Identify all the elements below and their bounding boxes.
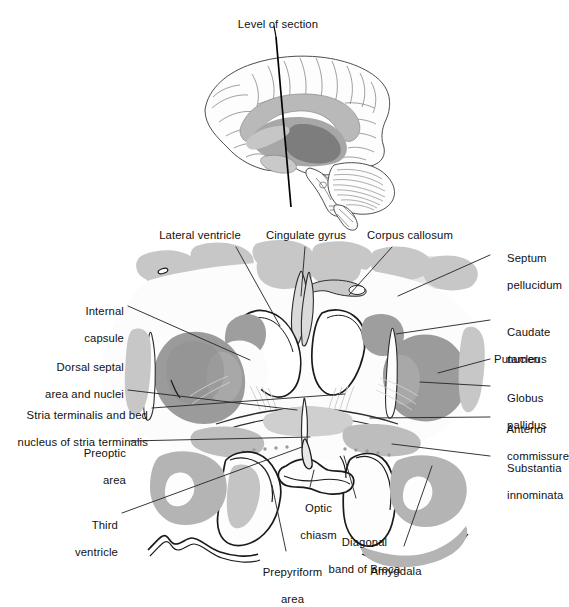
label-prepyriform-area-line2: area (281, 593, 304, 605)
label-substantia-innominata-line1: Substantia (507, 462, 562, 474)
label-third-ventricle-line2: ventricle (75, 546, 118, 558)
label-corpus-callosum: Corpus callosum (356, 229, 464, 242)
label-diagonal-band-line1: Diagonal (342, 536, 388, 548)
label-septum-pellucidum-line1: Septum (507, 252, 547, 264)
label-preoptic-area-line2: area (103, 474, 126, 486)
corpus-callosum-tip (349, 286, 365, 295)
label-anterior-commissure-line1: Anterior (506, 423, 546, 435)
label-substantia-innominata-line2: innominata (507, 489, 563, 501)
label-preoptic-area-line1: Preoptic (84, 447, 126, 459)
putamen-left-lighter (166, 341, 224, 404)
label-putamen: Putamen (494, 353, 558, 366)
label-globus-pallidus-line1: Globus (507, 392, 543, 404)
label-caudate-nucleus-line1: Caudate (507, 326, 551, 338)
label-septum-pellucidum-line2: pellucidum (507, 279, 562, 291)
label-lateral-ventricle: Lateral ventricle (150, 229, 250, 242)
label-third-ventricle: Third ventricle (40, 506, 118, 572)
label-internal-capsule-line2: capsule (84, 332, 124, 344)
label-third-ventricle-line1: Third (92, 519, 118, 531)
label-stria-terminalis-line1: Stria terminalis and bed (27, 409, 148, 421)
label-optic-chiasm-line1: Optic (305, 502, 332, 514)
label-diagonal-band-of-broca: Diagonal band of Broca (306, 523, 410, 589)
label-caudate-nucleus: Caudate nucleus (494, 313, 558, 379)
inset-sagittal-brain (205, 26, 395, 230)
label-cingulate-gyrus: Cingulate gyrus (256, 229, 356, 242)
label-substantia-innominata: Substantia innominata (494, 449, 564, 515)
label-preoptic-area: Preoptic area (46, 434, 126, 500)
label-internal-capsule-line1: Internal (85, 305, 124, 317)
label-septum-pellucidum: Septum pellucidum (494, 239, 560, 305)
label-dorsal-septal-line1: Dorsal septal (57, 361, 124, 373)
label-level-of-section: Level of section (198, 18, 358, 31)
label-amygdala: Amygdala (352, 565, 440, 578)
